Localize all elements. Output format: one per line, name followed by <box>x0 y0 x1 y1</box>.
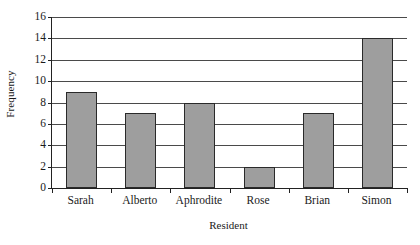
x-axis-tick-mark <box>111 188 112 193</box>
y-axis-tick-mark <box>48 124 52 125</box>
x-axis-tick-label: Aphrodite <box>169 194 228 207</box>
gridline <box>52 103 407 104</box>
gridline <box>52 60 407 61</box>
y-axis-tick-label: 16 <box>35 11 47 23</box>
gridline <box>52 17 407 18</box>
x-axis-tick-mark <box>170 188 171 193</box>
x-axis-tick-mark <box>348 188 349 193</box>
x-axis-tick-mark <box>407 188 408 193</box>
y-axis-tick-mark <box>48 17 52 18</box>
x-axis-tick-labels: SarahAlbertoAphroditeRoseBrianSimon <box>51 194 406 210</box>
y-axis-tick-label: 0 <box>40 182 46 194</box>
y-axis-tick-label: 2 <box>40 161 46 173</box>
x-axis-title: Resident <box>51 219 406 231</box>
y-axis-tick-label: 14 <box>35 33 47 45</box>
gridline <box>52 124 407 125</box>
y-axis-tick-label: 8 <box>40 97 46 109</box>
x-axis-tick-label: Brian <box>288 194 347 207</box>
bar <box>362 38 393 188</box>
y-axis-title: Frequency <box>0 0 20 188</box>
x-axis-tick-label: Alberto <box>110 194 169 207</box>
gridline <box>52 145 407 146</box>
y-axis-tick-label: 4 <box>40 140 46 152</box>
y-axis-tick-mark <box>48 38 52 39</box>
x-axis-tick-label: Rose <box>229 194 288 207</box>
x-axis-tick-label: Simon <box>347 194 406 207</box>
x-axis-tick-mark <box>289 188 290 193</box>
x-axis-tick-mark <box>52 188 53 193</box>
y-axis-tick-mark <box>48 167 52 168</box>
bar <box>125 113 156 188</box>
gridline <box>52 38 407 39</box>
x-axis-tick-mark <box>230 188 231 193</box>
y-axis-tick-mark <box>48 145 52 146</box>
y-axis-tick-label: 10 <box>35 75 47 87</box>
y-axis-tick-mark <box>48 103 52 104</box>
gridline <box>52 81 407 82</box>
plot-area <box>51 17 407 189</box>
x-axis-tick-label: Sarah <box>51 194 110 207</box>
bar-chart: Frequency 0246810121416 SarahAlbertoAphr… <box>0 0 420 245</box>
y-axis-tick-mark <box>48 81 52 82</box>
y-axis-tick-label: 12 <box>35 54 47 66</box>
bar <box>66 92 97 188</box>
bar <box>184 103 215 189</box>
bar <box>303 113 334 188</box>
y-axis-tick-label: 6 <box>40 118 46 130</box>
bar <box>244 167 275 188</box>
y-axis-title-label: Frequency <box>4 70 16 117</box>
y-axis-tick-labels: 0246810121416 <box>22 17 46 188</box>
gridline <box>52 167 407 168</box>
y-axis-tick-mark <box>48 60 52 61</box>
